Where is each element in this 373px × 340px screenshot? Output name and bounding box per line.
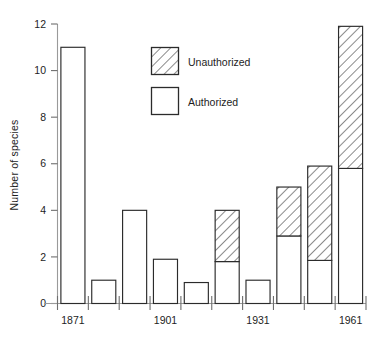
stacked-bar-chart: 024681012 Number of species 187119011931…	[0, 0, 373, 340]
y-tick-label: 2	[40, 251, 46, 263]
bar-segment-unauthorized	[339, 26, 363, 168]
bar-segment-authorized	[215, 262, 239, 304]
bar-segment-authorized	[61, 47, 85, 303]
y-tick-label: 12	[34, 18, 46, 30]
y-axis-title: Number of species	[8, 120, 20, 211]
x-tick-label: 1901	[154, 314, 178, 326]
legend-label-unauthorized: Unauthorized	[188, 56, 251, 68]
bar-segment-unauthorized	[308, 166, 332, 260]
bar-segment-unauthorized	[277, 187, 301, 236]
x-tick-label: 1871	[61, 314, 85, 326]
x-tick-label: 1961	[339, 314, 363, 326]
legend-swatch-authorized	[152, 88, 179, 115]
bar-segment-authorized	[123, 210, 147, 303]
y-tick-label: 8	[40, 111, 46, 123]
y-tick-label: 4	[40, 204, 46, 216]
bar-segment-authorized	[339, 168, 363, 303]
y-tick-label: 10	[34, 64, 46, 76]
bar-segment-authorized	[184, 283, 208, 304]
bar-segment-unauthorized	[215, 210, 239, 261]
bar-segment-authorized	[246, 280, 270, 303]
y-tick-label: 6	[40, 157, 46, 169]
bar-segment-authorized	[153, 259, 177, 303]
x-tick-label: 1931	[246, 314, 270, 326]
legend-swatch-unauthorized	[152, 48, 179, 75]
chart-figure: 024681012 Number of species 187119011931…	[0, 0, 373, 340]
bar-segment-authorized	[92, 280, 116, 303]
bar-segment-authorized	[308, 260, 332, 303]
legend-label-authorized: Authorized	[188, 96, 238, 108]
bar-segment-authorized	[277, 236, 301, 304]
